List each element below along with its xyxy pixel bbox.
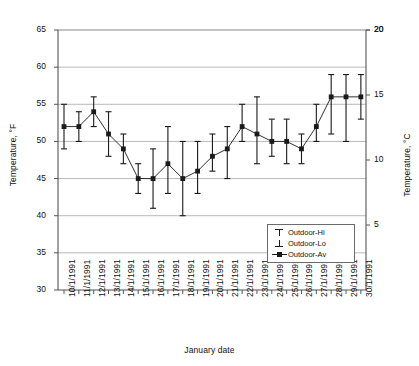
data-point-outdoor-av xyxy=(210,154,215,159)
x-tick-label: 18/1/1991 xyxy=(187,259,196,297)
x-tick-label: 19/1/1991 xyxy=(202,259,211,297)
data-point-outdoor-av xyxy=(91,109,96,114)
x-tick-label: 29/1/1991 xyxy=(350,259,359,297)
y-tick-label-left: 55 xyxy=(20,99,46,108)
y-tick-label-left: 35 xyxy=(20,248,46,257)
x-tick-label: 28/1/1991 xyxy=(335,259,344,297)
x-tick-label: 24/1/1991 xyxy=(276,259,285,297)
data-point-outdoor-av xyxy=(62,124,67,129)
legend-label: Outdoor-Hi xyxy=(288,227,325,238)
chart-legend: Outdoor-Hi Outdoor-Lo Outdoor-Av xyxy=(267,224,355,263)
tee-up-marker-icon xyxy=(270,227,288,238)
x-tick-label: 26/1/1991 xyxy=(305,259,314,297)
x-tick-label: 20/1/1991 xyxy=(216,259,225,297)
x-tick-label: 27/1/1991 xyxy=(320,259,329,297)
data-point-outdoor-av xyxy=(329,94,334,99)
data-point-outdoor-av xyxy=(166,161,171,166)
data-point-outdoor-av xyxy=(314,124,319,129)
legend-item-outdoor-lo: Outdoor-Lo xyxy=(270,238,351,249)
legend-label: Outdoor-Av xyxy=(288,249,326,260)
y-tick-label-left: 50 xyxy=(20,136,46,145)
y-axis-label-right: Temperature, °C xyxy=(402,105,412,225)
y-tick-label-left: 30 xyxy=(20,285,46,294)
x-tick-label: 11/1/1991 xyxy=(83,260,92,297)
plot-area xyxy=(0,0,419,366)
x-tick-label: 14/1/1991 xyxy=(127,259,136,297)
x-tick-label: 12/1/1991 xyxy=(98,259,107,297)
data-point-outdoor-av xyxy=(344,94,349,99)
data-point-outdoor-av xyxy=(358,94,363,99)
x-tick-label: 17/1/1991 xyxy=(172,259,181,297)
data-point-outdoor-av xyxy=(269,139,274,144)
x-axis-label: January date xyxy=(0,345,419,355)
y-tick-label-left: 45 xyxy=(20,174,46,183)
x-tick-label: 16/1/1991 xyxy=(157,259,166,297)
data-point-outdoor-av xyxy=(76,124,81,129)
x-tick-label: 25/1/1991 xyxy=(291,259,300,297)
y-tick-label-right: 5 xyxy=(374,220,400,229)
data-point-outdoor-av xyxy=(225,146,230,151)
x-tick-label: 15/1/1991 xyxy=(142,259,151,297)
data-point-outdoor-av xyxy=(106,132,111,137)
data-point-outdoor-av xyxy=(195,169,200,174)
x-tick-label: 13/1/1991 xyxy=(113,259,122,297)
x-tick-label: 21/1/1991 xyxy=(231,259,240,297)
data-point-outdoor-av xyxy=(240,124,245,129)
line-square-marker-icon xyxy=(270,249,288,260)
data-point-outdoor-av xyxy=(151,176,156,181)
chart-figure: Temperature, °F Temperature, °C January … xyxy=(0,0,419,366)
y-tick-label-left: 40 xyxy=(20,211,46,220)
y-tick-label-right: 10 xyxy=(374,155,400,164)
tee-down-marker-icon xyxy=(270,238,288,249)
y-tick-label-left: 65 xyxy=(20,25,46,34)
legend-item-outdoor-av: Outdoor-Av xyxy=(270,249,351,260)
data-point-outdoor-av xyxy=(255,132,260,137)
x-tick-label: 10/1/1991 xyxy=(68,259,77,297)
data-point-outdoor-av xyxy=(284,139,289,144)
legend-label: Outdoor-Lo xyxy=(288,238,326,249)
x-tick-label: 22/1/1991 xyxy=(246,259,255,297)
legend-item-outdoor-hi: Outdoor-Hi xyxy=(270,227,351,238)
data-point-outdoor-av xyxy=(299,146,304,151)
y-tick-label-right: 15 xyxy=(374,90,400,99)
y-tick-label-left: 60 xyxy=(20,62,46,71)
x-tick-label: 23/1/1991 xyxy=(261,259,270,297)
data-point-outdoor-av xyxy=(121,146,126,151)
y-axis-label-left: Temperature, °F xyxy=(8,95,18,215)
data-point-outdoor-av xyxy=(180,176,185,181)
data-point-outdoor-av xyxy=(136,176,141,181)
y-tick-label-right: 20 xyxy=(374,25,400,34)
x-tick-label: 30/1/1991 xyxy=(365,259,374,297)
